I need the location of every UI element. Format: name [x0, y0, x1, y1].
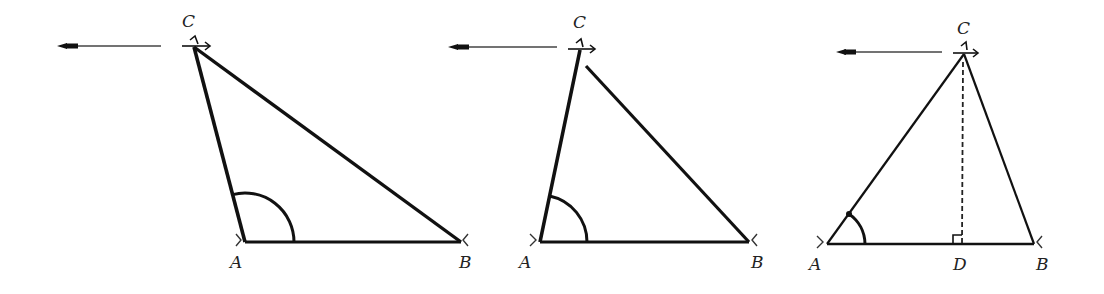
side-cb: [194, 47, 461, 242]
compass-mark-c: [953, 42, 978, 57]
panel-3: C A D B: [807, 18, 1049, 274]
vertex-label-d: D: [952, 254, 967, 274]
compass-mark-b: [752, 234, 757, 246]
compass-mark-b: [1037, 236, 1042, 248]
side-ac: [540, 50, 580, 242]
vertex-label-b: B: [458, 252, 472, 272]
vertex-label-c: C: [182, 11, 195, 31]
panel-1: C A B: [57, 11, 472, 272]
vertex-label-a: A: [517, 252, 531, 272]
direction-arrow: [57, 43, 161, 49]
side-cb: [964, 54, 1034, 244]
right-angle-marker-d: [953, 235, 962, 244]
vertex-label-c: C: [573, 12, 586, 32]
side-cb: [586, 66, 749, 242]
panel-2: C A B: [448, 12, 764, 272]
direction-arrow: [836, 49, 942, 55]
vertex-label-a: A: [228, 252, 242, 272]
angle-arc-a: [849, 214, 865, 244]
compass-mark-a: [236, 234, 241, 246]
side-ac: [194, 47, 245, 242]
vertex-label-a: A: [807, 254, 821, 274]
vertex-label-b: B: [750, 252, 764, 272]
compass-mark-a: [817, 236, 823, 248]
angle-arc-a: [550, 196, 587, 242]
arc-endpoint-dot: [846, 211, 852, 217]
compass-mark-b: [463, 234, 468, 246]
triangle-constructions-figure: C A B C A B: [0, 0, 1104, 294]
vertex-label-b: B: [1035, 254, 1049, 274]
altitude-cd: [962, 62, 963, 244]
direction-arrow: [448, 44, 557, 50]
compass-mark-a: [530, 234, 536, 246]
vertex-label-c: C: [957, 18, 970, 38]
